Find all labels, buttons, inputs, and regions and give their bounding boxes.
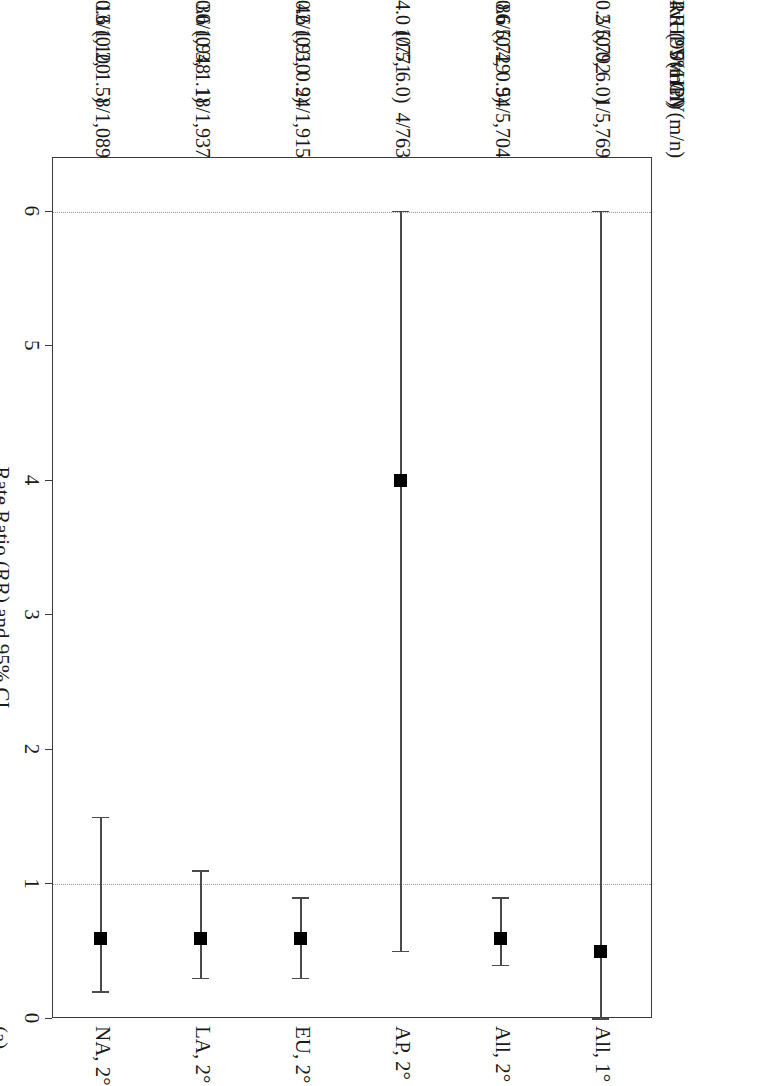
ci-cap-lower (393, 951, 410, 952)
x-tick-label: 4 (19, 460, 44, 500)
x-tick-label: 3 (19, 594, 44, 634)
ci-cap-lower (93, 991, 110, 992)
ci-cap-upper (193, 870, 210, 871)
category-label: EU, 2° (290, 1026, 315, 1083)
x-tick (45, 480, 52, 481)
x-tick-label: 2 (19, 729, 44, 769)
x-tick-label: 0 (19, 998, 44, 1038)
confidence-interval-line (600, 212, 601, 1019)
cell-rr: 0.6 (0.2, 1.5) (91, 0, 114, 2)
ci-cap-lower (493, 965, 510, 966)
cell-rr: 0.6 (0.4, 0.9) (491, 0, 514, 2)
cell-rr: 0.5 (0.0, 6.0) (591, 0, 614, 2)
point-estimate-marker (595, 945, 608, 958)
ci-cap-upper (493, 897, 510, 898)
cell-rr: 4.0 (0.5, 6.0) (391, 0, 414, 2)
plot-area (52, 157, 652, 1018)
panel-label: (a) (0, 1026, 12, 1049)
ci-cap-lower (293, 978, 310, 979)
x-tick-label: 5 (19, 325, 44, 365)
point-estimate-marker (295, 932, 308, 945)
x-tick (45, 1018, 52, 1019)
column-header-rr: RR (95% CI) (665, 0, 688, 2)
ci-cap-upper (293, 897, 310, 898)
ci-cap-upper (593, 211, 610, 212)
x-tick-label: 6 (19, 191, 44, 231)
ci-cap-upper (393, 211, 410, 212)
category-label: NA, 2° (90, 1026, 115, 1086)
cell-rr: 0.6 (0.3, 0.9) (291, 0, 314, 2)
x-tick (45, 345, 52, 346)
confidence-interval-line (100, 817, 101, 992)
x-tick (45, 749, 52, 750)
x-tick (45, 883, 52, 884)
point-estimate-marker (495, 932, 508, 945)
category-label: AP, 2° (390, 1026, 415, 1080)
point-estimate-marker (395, 474, 408, 487)
x-tick-label: 1 (19, 863, 44, 903)
x-tick (45, 211, 52, 212)
ci-cap-lower (593, 1018, 610, 1019)
confidence-interval-line (200, 871, 201, 979)
ci-cap-upper (93, 817, 110, 818)
category-label: All, 1° (590, 1026, 615, 1082)
point-estimate-marker (95, 932, 108, 945)
category-label: LA, 2° (190, 1026, 215, 1083)
ci-cap-lower (193, 978, 210, 979)
category-label: All, 2° (490, 1026, 515, 1082)
cell-rr: 0.6 (0.3, 1.1) (191, 0, 214, 2)
x-axis-title: Rate Ratio (RR) and 95% CI (0, 157, 14, 1018)
reference-line-1 (53, 884, 651, 885)
confidence-interval-line (400, 212, 401, 952)
reference-line-6 (53, 212, 651, 213)
point-estimate-marker (195, 932, 208, 945)
x-tick (45, 614, 52, 615)
